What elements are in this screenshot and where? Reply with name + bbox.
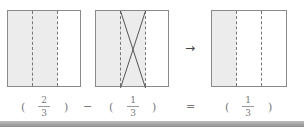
fraction-box-result — [211, 10, 287, 87]
open-paren: ( — [109, 101, 113, 114]
denominator: 3 — [127, 107, 139, 118]
fraction-box-crossed — [95, 10, 169, 87]
close-paren: ) — [152, 101, 156, 114]
equals-sign: = — [186, 100, 195, 113]
shaded-region — [212, 11, 236, 86]
numerator: 2 — [38, 95, 50, 107]
fraction-box-two-thirds — [7, 10, 81, 87]
fraction-two-thirds: 2 3 — [38, 95, 50, 118]
cross-out-icon — [96, 11, 170, 88]
bottom-divider — [0, 121, 304, 127]
denominator: 3 — [242, 107, 254, 118]
denominator: 3 — [38, 107, 50, 118]
open-paren: ( — [225, 101, 229, 114]
numerator: 1 — [127, 95, 139, 107]
open-paren: ( — [21, 101, 25, 114]
fraction-one-third: 1 3 — [127, 95, 139, 118]
close-paren: ) — [64, 101, 68, 114]
dashed-divider — [236, 11, 237, 86]
dashed-divider — [32, 11, 33, 86]
dashed-divider — [57, 11, 58, 86]
arrow-right-icon: → — [185, 41, 195, 55]
fraction-result: 1 3 — [242, 95, 254, 118]
dashed-divider — [261, 11, 262, 86]
minus-sign: − — [83, 100, 92, 113]
numerator: 1 — [242, 95, 254, 107]
close-paren: ) — [268, 101, 272, 114]
